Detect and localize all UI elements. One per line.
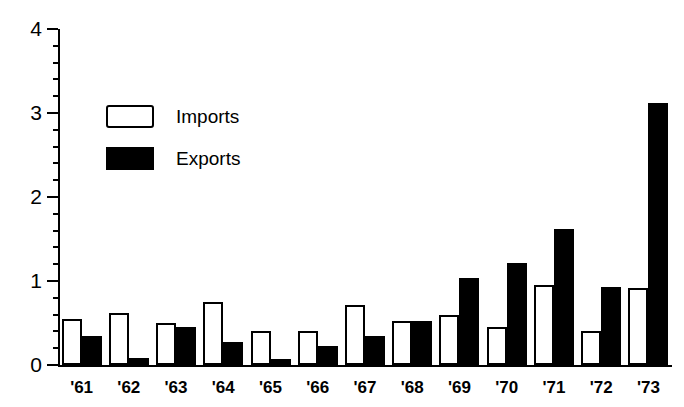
x-axis-tick-label: '73 (623, 379, 673, 396)
bar-imports (392, 321, 412, 365)
legend-item-imports: Imports (106, 101, 240, 131)
x-axis-tick-label: '71 (529, 379, 579, 396)
bar-imports (203, 302, 223, 365)
bar-exports (223, 342, 243, 365)
y-axis-tick-label: 0 (16, 354, 42, 375)
y-axis-minor-tick (53, 314, 58, 316)
y-axis-major-tick (47, 364, 58, 366)
bar-exports (271, 359, 291, 365)
legend-label-exports: Exports (176, 149, 240, 168)
y-axis-minor-tick (53, 95, 58, 97)
bar-exports (176, 327, 196, 365)
y-axis-minor-tick (53, 246, 58, 248)
y-axis-minor-tick (53, 347, 58, 349)
x-axis-tick-label: '72 (576, 379, 626, 396)
x-axis-tick-label: '64 (198, 379, 248, 396)
x-axis-tick-label: '70 (482, 379, 532, 396)
y-axis-minor-tick (53, 129, 58, 131)
bar-exports (648, 103, 668, 365)
bar-exports (365, 336, 385, 365)
legend-swatch-exports-icon (106, 147, 154, 170)
y-axis-major-tick (47, 280, 58, 282)
bar-imports (628, 288, 648, 365)
y-axis-minor-tick (53, 146, 58, 148)
bar-imports (298, 331, 318, 365)
y-axis-major-tick (47, 28, 58, 30)
y-axis-minor-tick (53, 297, 58, 299)
y-axis-minor-tick (53, 162, 58, 164)
y-axis-minor-tick (53, 62, 58, 64)
y-axis-minor-tick (53, 179, 58, 181)
x-axis-line (58, 365, 672, 367)
legend-item-exports: Exports (106, 143, 240, 173)
y-axis-minor-tick (53, 78, 58, 80)
y-axis-minor-tick (53, 213, 58, 215)
x-axis-tick-label: '69 (434, 379, 484, 396)
y-axis-tick-label: 4 (16, 18, 42, 39)
y-axis-minor-tick (53, 230, 58, 232)
y-axis-tick-label: 3 (16, 102, 42, 123)
bar-exports (412, 321, 432, 365)
bar-imports (534, 285, 554, 365)
bar-imports (109, 313, 129, 365)
x-axis-tick-label: '68 (387, 379, 437, 396)
y-axis-major-tick (47, 196, 58, 198)
x-axis-tick-label: '62 (104, 379, 154, 396)
y-axis-line (58, 29, 60, 367)
bar-exports (459, 278, 479, 365)
y-axis-major-tick (47, 112, 58, 114)
bar-imports (581, 331, 601, 365)
bar-chart: 01234 '61'62'63'64'65'66'67'68'69'70'71'… (0, 0, 684, 407)
y-axis-tick-label: 1 (16, 270, 42, 291)
bar-exports (82, 336, 102, 365)
bar-exports (318, 346, 338, 365)
x-axis-tick-label: '61 (57, 379, 107, 396)
y-axis-minor-tick (53, 330, 58, 332)
x-axis-tick-label: '66 (293, 379, 343, 396)
x-axis-tick-label: '67 (340, 379, 390, 396)
bar-exports (129, 358, 149, 365)
y-axis-tick-label: 2 (16, 186, 42, 207)
y-axis-minor-tick (53, 263, 58, 265)
x-axis-tick-label: '65 (246, 379, 296, 396)
y-axis-minor-tick (53, 45, 58, 47)
bar-exports (554, 229, 574, 365)
legend-swatch-imports-icon (106, 105, 154, 128)
bar-imports (156, 323, 176, 365)
chart-legend: Imports Exports (106, 101, 240, 185)
bar-imports (487, 327, 507, 365)
bar-imports (62, 319, 82, 365)
legend-label-imports: Imports (176, 107, 239, 126)
bar-imports (345, 305, 365, 365)
bar-exports (507, 263, 527, 365)
bar-imports (251, 331, 271, 365)
bar-exports (601, 287, 621, 365)
bar-imports (439, 315, 459, 365)
x-axis-tick-label: '63 (151, 379, 201, 396)
